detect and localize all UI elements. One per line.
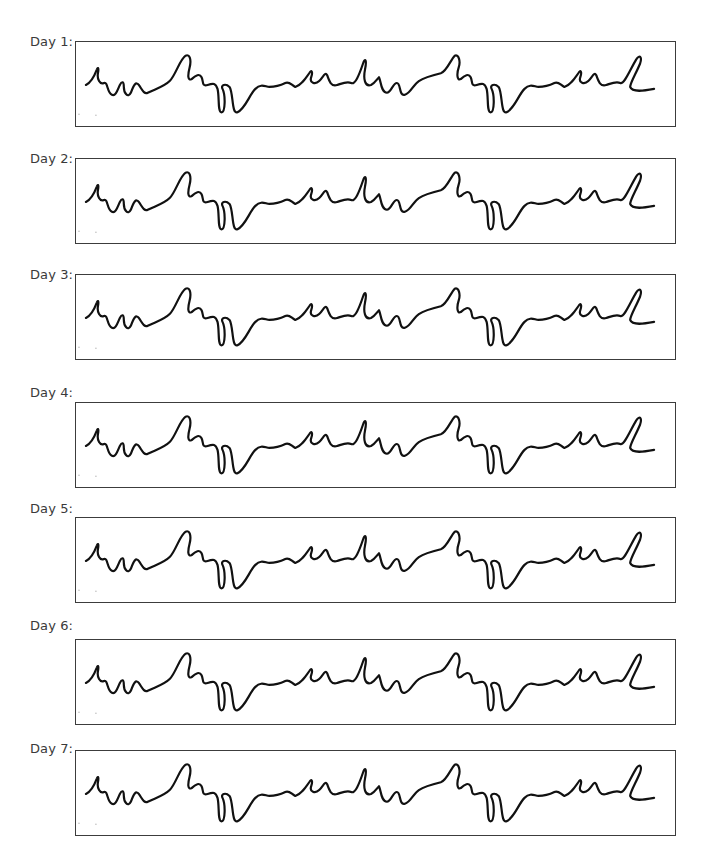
cursive-stroke: [86, 531, 654, 588]
scan-speck: [78, 346, 80, 348]
handwriting-sample: [76, 640, 675, 724]
writing-box: [75, 402, 676, 488]
cursive-stroke: [86, 416, 654, 473]
handwriting-sample: [76, 403, 675, 487]
day-label: Day 6:: [30, 618, 73, 633]
writing-box: [75, 274, 676, 360]
writing-box: [75, 639, 676, 725]
handwriting-sample: [76, 159, 675, 243]
handwriting-sample: [76, 518, 675, 602]
scan-speck: [78, 230, 80, 232]
scan-speck: [95, 231, 97, 233]
handwriting-sample: [76, 751, 675, 835]
handwriting-sample: [76, 275, 675, 359]
scan-speck: [78, 822, 80, 824]
cursive-stroke: [86, 653, 654, 710]
day-label: Day 2:: [30, 151, 73, 166]
day-label: Day 4:: [30, 385, 73, 400]
scan-speck: [78, 711, 80, 713]
handwriting-sample: [76, 42, 675, 126]
day-label: Day 3:: [30, 267, 73, 282]
scan-speck: [95, 712, 97, 714]
day-label: Day 5:: [30, 501, 73, 516]
scan-speck: [78, 474, 80, 476]
scan-speck: [95, 823, 97, 825]
scan-speck: [95, 590, 97, 592]
writing-box: [75, 41, 676, 127]
day-label: Day 1:: [30, 34, 73, 49]
cursive-stroke: [86, 288, 654, 345]
scan-speck: [95, 475, 97, 477]
writing-box: [75, 750, 676, 836]
cursive-stroke: [86, 764, 654, 821]
scan-speck: [95, 114, 97, 116]
scan-speck: [78, 589, 80, 591]
day-label: Day 7:: [30, 741, 73, 756]
writing-box: [75, 158, 676, 244]
writing-box: [75, 517, 676, 603]
cursive-stroke: [86, 172, 654, 229]
scan-speck: [78, 113, 80, 115]
scan-speck: [95, 347, 97, 349]
cursive-stroke: [86, 55, 654, 112]
